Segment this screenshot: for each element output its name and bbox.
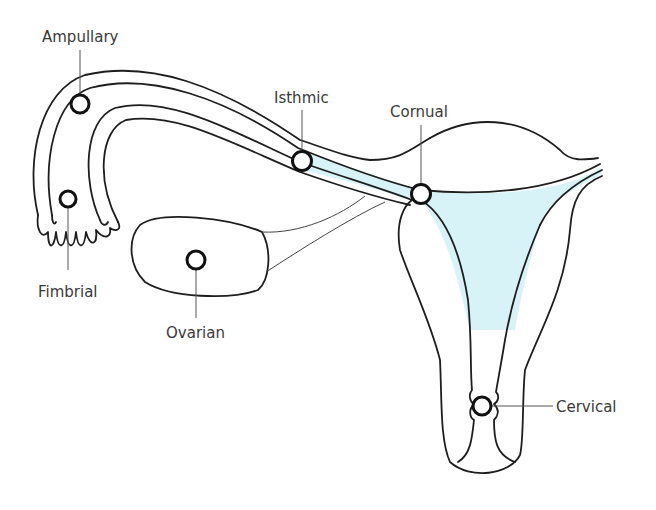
marker-ovarian: [187, 251, 205, 269]
tube-wall-2: [49, 83, 420, 215]
marker-isthmic: [293, 152, 312, 171]
tube-wall-4: [104, 119, 410, 222]
uterus-fundus: [430, 122, 598, 159]
label-cornual: Cornual: [390, 103, 448, 121]
ectopic-pregnancy-sites-diagram: Ampullary Fimbrial Isthmic Cornual Ovari…: [0, 0, 656, 510]
tube-wall-3: [89, 105, 412, 220]
label-cervical: Cervical: [556, 398, 617, 416]
marker-ampullary: [71, 95, 89, 113]
fimbriae: [38, 215, 120, 246]
marker-cervical: [473, 397, 491, 415]
ovarian-ligament-lower: [266, 202, 385, 272]
label-ampullary: Ampullary: [42, 28, 119, 46]
marker-fimbrial: [60, 191, 76, 207]
label-isthmic: Isthmic: [274, 89, 329, 107]
label-ovarian: Ovarian: [166, 324, 225, 342]
ovarian-ligament-upper: [262, 196, 365, 232]
fimbriae-inner: [52, 215, 108, 225]
label-fimbrial: Fimbrial: [38, 283, 98, 301]
marker-cornual: [412, 185, 431, 204]
